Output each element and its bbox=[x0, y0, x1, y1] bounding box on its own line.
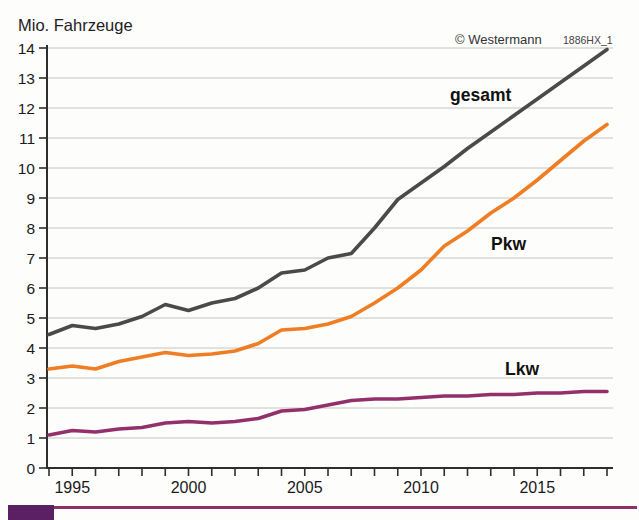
series-label-pkw: Pkw bbox=[491, 234, 526, 254]
y-tick-label: 0 bbox=[26, 460, 35, 477]
footer-accent-block bbox=[8, 505, 54, 520]
y-tick-label: 2 bbox=[26, 400, 35, 417]
y-tick-label: 3 bbox=[26, 370, 35, 387]
footer-rule bbox=[54, 506, 637, 509]
series-label-gesamt: gesamt bbox=[450, 85, 511, 105]
x-tick-label: 2010 bbox=[403, 479, 439, 496]
y-tick-label: 5 bbox=[26, 310, 35, 327]
series-line-lkw bbox=[49, 392, 607, 436]
y-tick-label: 12 bbox=[18, 100, 35, 117]
y-tick-label: 8 bbox=[26, 220, 35, 237]
x-tick-label: 2000 bbox=[171, 479, 207, 496]
chart-page: 0123456789101112131419952000200520102015… bbox=[0, 0, 639, 520]
y-tick-label: 11 bbox=[19, 130, 35, 147]
y-tick-label: 14 bbox=[18, 40, 36, 57]
x-tick-label: 2015 bbox=[519, 479, 555, 496]
figure-code: 1886HX_1 bbox=[563, 34, 613, 46]
x-tick-label: 2005 bbox=[287, 479, 323, 496]
publisher-credit: © Westermann bbox=[455, 32, 542, 47]
series-label-lkw: Lkw bbox=[505, 359, 539, 379]
y-tick-label: 13 bbox=[18, 70, 35, 87]
y-tick-label: 7 bbox=[26, 250, 35, 267]
y-tick-label: 9 bbox=[26, 190, 35, 207]
x-tick-label: 1995 bbox=[54, 479, 90, 496]
vehicle-stock-line-chart: 0123456789101112131419952000200520102015… bbox=[0, 0, 639, 520]
y-tick-label: 1 bbox=[26, 430, 35, 447]
y-tick-label: 4 bbox=[26, 340, 35, 357]
y-tick-label: 10 bbox=[18, 160, 36, 177]
y-axis-unit-label: Mio. Fahrzeuge bbox=[18, 16, 133, 34]
y-tick-label: 6 bbox=[26, 280, 35, 297]
